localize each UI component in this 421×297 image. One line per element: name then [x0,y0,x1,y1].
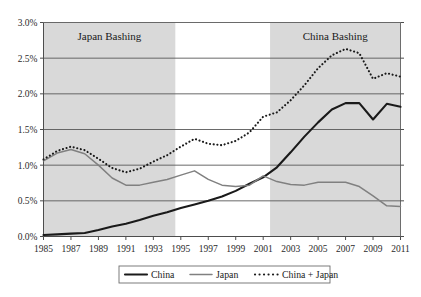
y-tick-label: 1.5% [18,125,38,135]
legend-label-china-japan: China + Japan [282,269,338,280]
legend-label-japan: Japan [216,269,238,280]
x-tick-label: 2009 [364,244,383,254]
china-bashing-band-label: China Bashing [303,30,369,42]
x-tick-label: 1991 [116,244,135,254]
x-tick-label: 2003 [281,244,300,254]
japan-bashing-band-label: Japan Bashing [77,30,141,42]
x-tick-label: 1999 [226,244,245,254]
legend-label-china: China [151,269,175,280]
y-tick-label: 2.5% [18,54,38,64]
x-tick-label: 1995 [171,244,190,254]
x-tick-label: 2001 [254,244,273,254]
x-tick-label: 1989 [89,244,108,254]
x-tick-label: 2007 [336,244,355,254]
x-tick-label: 1993 [144,244,163,254]
x-tick-label: 1997 [199,244,218,254]
line-chart: 0.0%0.5%1.0%1.5%2.0%2.5%3.0% 19851987198… [0,0,421,297]
y-tick-label: 3.0% [18,18,38,28]
chart-container: 0.0%0.5%1.0%1.5%2.0%2.5%3.0% 19851987198… [0,0,421,297]
x-tick-label: 2011 [391,244,410,254]
y-tick-label: 1.0% [18,161,38,171]
y-tick-label: 0.0% [18,232,38,242]
chart-legend: ChinaJapanChina + Japan [119,266,338,283]
x-tick-label: 1987 [61,244,80,254]
y-tick-label: 0.5% [18,196,38,206]
x-tick-label: 2005 [309,244,328,254]
y-tick-label: 2.0% [18,89,38,99]
x-tick-label: 1985 [34,244,53,254]
